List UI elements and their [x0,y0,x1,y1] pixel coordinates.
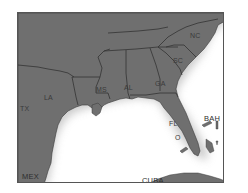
label-fl: FL [169,120,178,127]
label-fl-o: O [175,134,181,141]
label-nc: NC [190,32,201,39]
map-frame: NC SC GA AL MS LA TX FL O MEX CUBA BAH [17,12,224,183]
label-cuba: CUBA [142,177,164,183]
label-ga: GA [155,80,166,87]
label-mex: MEX [22,173,39,180]
label-al: AL [124,84,133,91]
florida-keys [180,147,188,153]
label-la: LA [44,94,53,101]
label-sc: SC [173,57,183,64]
label-tx: TX [20,105,29,112]
label-bah: BAH [204,115,220,122]
label-ms: MS [96,86,107,93]
